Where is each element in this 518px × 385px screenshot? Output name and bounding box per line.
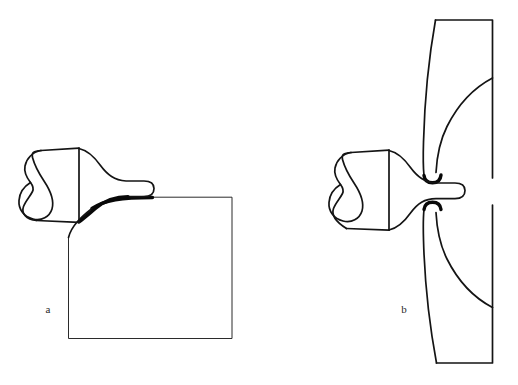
panel-a-label: a xyxy=(46,303,51,315)
panel-a-substrate-block xyxy=(69,197,233,338)
panel-b-curved-band-lower xyxy=(423,202,492,363)
panel-b-neck-block xyxy=(347,150,390,230)
panel-a-flared-shaft xyxy=(79,149,154,223)
panel-a: a xyxy=(19,148,232,338)
panel-b-flared-shaft xyxy=(389,151,465,231)
panel-b-curved-band-upper xyxy=(423,20,492,183)
panel-a-neck-block xyxy=(37,148,80,222)
figure-canvas: a xyxy=(0,0,518,385)
panel-a-left-bulb xyxy=(19,151,53,221)
panel-b-left-bulb xyxy=(329,153,363,229)
panel-b-label: b xyxy=(401,303,407,315)
figure-svg: a xyxy=(0,0,518,385)
panel-b: b xyxy=(329,20,493,363)
